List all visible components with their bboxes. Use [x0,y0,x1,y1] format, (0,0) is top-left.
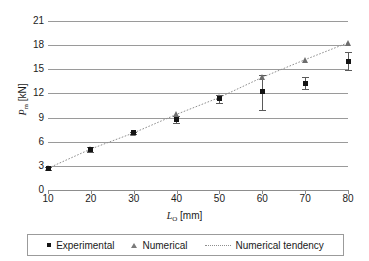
error-bar-cap [259,110,266,111]
x-axis-line [48,190,348,191]
experimental-data-point [346,59,351,64]
legend-label-experimental: Experimental [56,240,114,251]
tendency-line-svg [48,21,348,190]
x-axis-title-subscript: O [172,215,177,223]
error-bar-cap [345,52,352,53]
x-tick-label: 60 [247,193,277,204]
square-marker-icon [47,243,51,247]
experimental-data-point [88,147,93,152]
dotted-line-icon [205,245,231,246]
y-axis-title-subscript: m [22,104,30,109]
x-tick-label: 40 [162,193,192,204]
x-tick-label: 80 [333,193,363,204]
error-bar-cap [216,103,223,104]
x-tick-label: 30 [119,193,149,204]
legend-label-numerical: Numerical [142,240,187,251]
x-tick-label: 70 [290,193,320,204]
triangle-marker-icon [131,243,137,248]
legend-item-experimental: Experimental [47,240,114,251]
chart-legend: Experimental Numerical Numerical tendenc… [27,234,344,256]
experimental-data-point [303,81,308,86]
y-axis-title-unit: [kN] [17,83,28,101]
error-bar-cap [345,70,352,71]
experimental-data-point [260,89,265,94]
x-axis-title: LO [mm] [0,210,369,225]
y-tick-label: 6 [18,137,44,147]
numerical-tendency-line [48,21,348,190]
x-tick-label: 50 [204,193,234,204]
legend-item-numerical: Numerical [131,240,187,251]
experimental-data-point [174,117,179,122]
x-axis-title-unit: [mm] [180,210,202,221]
error-bar-cap [173,123,180,124]
x-tick-label: 20 [76,193,106,204]
experimental-data-point [131,130,136,135]
y-tick-label: 21 [18,16,44,26]
y-tick-label: 3 [18,161,44,171]
y-tick-label: 18 [18,40,44,50]
x-axis-tick-labels: 1020304050607080 [0,193,369,207]
error-bar-cap [302,89,309,90]
x-tick-label: 10 [33,193,63,204]
y-axis-title-symbol: P [17,109,28,115]
legend-item-numerical-tendency: Numerical tendency [205,240,324,251]
chart-figure: 036912151821 Pm [kN] 1020304050607080 LO… [0,0,369,261]
plot-area [48,21,348,190]
error-bar-cap [87,152,94,153]
experimental-data-point [46,166,51,171]
numerical-data-point [259,74,265,80]
y-axis-title: Pm [kN] [17,70,32,130]
legend-label-numerical-tendency: Numerical tendency [236,240,324,251]
experimental-data-point [217,96,222,101]
numerical-data-point [302,57,308,63]
numerical-data-point [345,40,351,46]
error-bar-cap [302,77,309,78]
